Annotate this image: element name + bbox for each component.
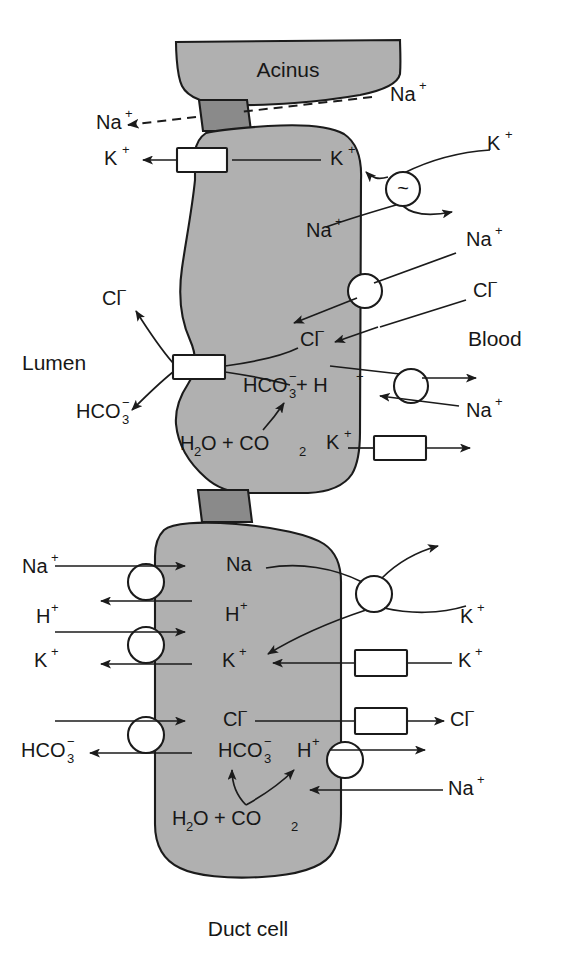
duct-na-lumen-text: Na [22,555,48,577]
duct-h2o-base: H [172,807,186,829]
acinar-cl-blood-sup: − [490,275,498,290]
duct-hco3-lumen-sup: − [67,734,75,749]
duct-h-baso-sup: + [312,734,320,749]
duct-na-lumen-sup: + [51,550,59,565]
acinar-cl-lumen-sup: − [119,283,127,298]
acinar-hco3h-tail: + H [296,374,328,396]
ion-transport-diagram: Acinus Na + Na + K + K + ~ [0,0,578,972]
acinar-atpase-glyph: ~ [397,177,409,199]
acinar-na-exch-sup: + [495,394,503,409]
duct-hco3-intra-sup: − [264,734,272,749]
acinar-hco3-lumen-sup: − [122,395,130,410]
duct-hco3-lumen-text: HCO [21,739,65,761]
duct-na-baso-text: Na [448,777,474,799]
duct-h-lumen-text: H [36,605,50,627]
duct-na-intra-text: Na [226,553,252,575]
acinar-k-blood-text: K [487,132,501,154]
acinar-cl-intra-sup: − [317,324,325,339]
duct-hco3-intra-sub: 3 [264,751,271,766]
acinar-h2o-base: H [180,432,194,454]
duct-k-chan-text: K [458,649,472,671]
tj-na-blood-sup: + [419,78,427,93]
label-duct-na-intra: Na [226,553,252,575]
acinar-h2o-sub2: 2 [299,444,306,459]
acinar-h2o-mid: O + CO [201,432,269,454]
acinar-hco3-lumen-sub: 3 [122,412,129,427]
tj-na-lumen-sup: + [125,106,133,121]
acinus-label: Acinus [256,58,319,81]
duct-h-intra-text: H [225,603,239,625]
duct-h-baso-text: H [297,739,311,761]
duct-k-lumen-sup: + [51,644,59,659]
duct-k-lumen-text: K [34,649,48,671]
acinar-k-lumen-sup: + [122,142,130,157]
duct-k-pump-sup: + [477,600,485,615]
duct-k-chan-sup: + [475,644,483,659]
acinar-k-lumen-text: K [104,147,118,169]
duct-cl-blood-sup: − [467,704,475,719]
tj-na-blood-text: Na [390,83,416,105]
acinar-k-chan-sup: + [344,426,352,441]
acinar-na-intra-sup: + [335,214,343,229]
duct-k-intra-text: K [222,649,236,671]
acinar-k-chan-text: K [326,431,340,453]
acinar-na-exch-text: Na [466,399,492,421]
tight-junction-acinar [199,100,251,131]
tight-junction-duct [198,490,252,522]
duct-cl-intra-sup: − [240,704,248,719]
lumen-label: Lumen [22,351,86,374]
duct-na-baso-sup: + [477,772,485,787]
acinar-k-blood-sup: + [505,127,513,142]
duct-hco3-lumen-sub: 3 [67,751,74,766]
duct-h2o-mid: O + CO [193,807,261,829]
acinar-k-intra-sup: + [348,142,356,157]
figure-caption: Duct cell [208,917,289,940]
acinar-na-blood-text: Na [466,228,492,250]
blood-label: Blood [468,327,522,350]
tj-na-lumen-text: Na [96,111,122,133]
acinar-k-intra-text: K [330,147,344,169]
duct-h-intra-sup: + [240,598,248,613]
duct-hco3-intra-text: HCO [218,739,262,761]
acinar-hco3-lumen-text: HCO [76,400,120,422]
acinar-na-blood-sup: + [495,223,503,238]
duct-h-lumen-sup: + [51,600,59,615]
duct-k-pump-text: K [460,605,474,627]
acinar-hco3h-tail-sup: + [356,369,364,384]
duct-k-intra-sup: + [239,644,247,659]
acinar-hco3h-base: HCO [243,374,287,396]
duct-h2o-sub2: 2 [291,819,298,834]
acinar-na-intra-text: Na [306,219,332,241]
